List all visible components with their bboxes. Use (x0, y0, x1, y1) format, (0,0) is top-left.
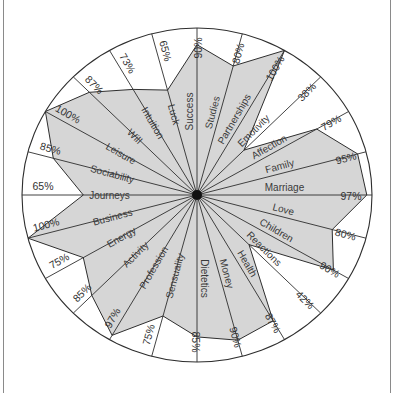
value-label: 42% (294, 288, 317, 311)
category-label: Journeys (89, 190, 130, 201)
value-label: 75% (47, 250, 71, 271)
value-label: 79% (319, 112, 343, 133)
category-label: Dietetics (199, 259, 210, 297)
value-label: 38% (295, 80, 318, 103)
value-label: 97% (340, 190, 361, 202)
center-dot (192, 190, 202, 200)
category-label: Success (184, 93, 195, 131)
category-label: Marriage (265, 182, 305, 193)
value-label: 90% (192, 37, 204, 58)
radar-chart: SuccessStudiesPartnershipsEmotivityAffec… (0, 0, 394, 393)
center-hub (192, 190, 202, 200)
value-label: 75% (140, 323, 157, 346)
value-label: 80% (229, 42, 246, 65)
value-label: 65% (157, 39, 174, 62)
value-label: 65% (32, 180, 53, 192)
value-label: 85% (190, 331, 202, 352)
value-label: 80% (334, 226, 357, 243)
value-label: 73% (117, 51, 138, 75)
value-label: 90% (318, 259, 342, 280)
